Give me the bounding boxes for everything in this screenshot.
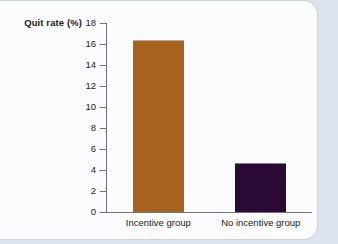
bars-layer xyxy=(107,23,312,212)
chart-card: Quit rate (%) 024681012141618 Incentive … xyxy=(0,0,318,240)
y-axis-tick xyxy=(100,170,106,171)
bar-chart: Quit rate (%) 024681012141618 Incentive … xyxy=(0,1,318,240)
y-axis-tick-label: 10 xyxy=(56,102,96,112)
bar xyxy=(133,40,184,212)
y-axis-tick-label: 8 xyxy=(56,123,96,133)
y-axis-tick xyxy=(100,149,106,150)
bar xyxy=(235,163,286,212)
y-axis-tick-label: 12 xyxy=(56,81,96,91)
y-axis-tick xyxy=(100,212,106,213)
y-axis-tick xyxy=(100,23,106,24)
x-axis-category-label: No incentive group xyxy=(201,217,318,228)
y-axis-tick-label: 6 xyxy=(56,144,96,154)
bar-top-highlight xyxy=(235,163,286,164)
y-axis-tick-label: 0 xyxy=(56,207,96,217)
y-axis-tick xyxy=(100,128,106,129)
x-axis-line xyxy=(106,212,312,213)
y-axis-tick xyxy=(100,65,106,66)
y-axis-tick-label: 16 xyxy=(56,39,96,49)
y-axis-tick-label: 4 xyxy=(56,165,96,175)
y-axis-tick xyxy=(100,107,106,108)
y-axis-tick-label: 18 xyxy=(56,18,96,28)
bar-top-highlight xyxy=(133,40,184,41)
y-axis-tick xyxy=(100,86,106,87)
y-axis-tick-label: 14 xyxy=(56,60,96,70)
y-axis-tick xyxy=(100,191,106,192)
y-axis-tick-label: 2 xyxy=(56,186,96,196)
y-axis-tick xyxy=(100,44,106,45)
